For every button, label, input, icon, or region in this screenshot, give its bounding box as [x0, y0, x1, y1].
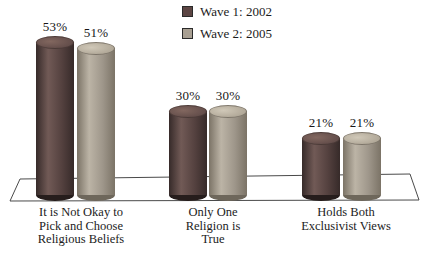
category-line: Exclusivist Views — [271, 220, 421, 234]
category-line: Only One — [138, 206, 288, 220]
cylinder-top — [343, 132, 381, 145]
value-label-wave2-cat2: 30% — [204, 89, 252, 103]
category-line: Religion is — [138, 220, 288, 234]
category-line: Holds Both — [271, 206, 421, 220]
legend-swatch-wave2-icon — [182, 28, 193, 39]
cylinder-top — [77, 42, 115, 55]
cylinder-body — [77, 48, 115, 195]
category-line: Pick and Choose — [6, 220, 156, 234]
cylinder-body — [36, 42, 74, 195]
cylinder-wave1-cat2 — [169, 105, 207, 195]
legend-label-wave2: Wave 2: 2005 — [200, 27, 272, 40]
category-label-1: It is Not Okay toPick and ChooseReligiou… — [6, 206, 156, 247]
cylinder-wave2-cat2 — [209, 105, 247, 195]
chart: 53%30%21%51%30%21% Wave 1: 2002 Wave 2: … — [0, 0, 426, 257]
cylinder-body — [302, 138, 340, 195]
cylinder-body — [209, 111, 247, 195]
cylinder-body — [343, 138, 381, 195]
value-label-wave2-cat3: 21% — [338, 116, 386, 130]
cylinder-top — [36, 36, 74, 49]
category-line: Religious Beliefs — [6, 233, 156, 247]
cylinder-wave2-cat3 — [343, 132, 381, 195]
value-label-wave2-cat1: 51% — [72, 26, 120, 40]
cylinder-wave1-cat3 — [302, 132, 340, 195]
legend-label-wave1: Wave 1: 2002 — [200, 5, 272, 18]
cylinder-wave1-cat1 — [36, 36, 74, 195]
legend-swatch-wave1-icon — [182, 6, 193, 17]
legend-item-wave1: Wave 1: 2002 — [182, 5, 272, 18]
cylinder-top — [209, 105, 247, 118]
cylinder-top — [169, 105, 207, 118]
category-label-3: Holds BothExclusivist Views — [271, 206, 421, 233]
legend: Wave 1: 2002 Wave 2: 2005 — [182, 5, 272, 40]
cylinder-body — [169, 111, 207, 195]
cylinder-wave2-cat1 — [77, 42, 115, 195]
category-line: True — [138, 233, 288, 247]
cylinder-top — [302, 132, 340, 145]
category-label-2: Only OneReligion isTrue — [138, 206, 288, 247]
legend-item-wave2: Wave 2: 2005 — [182, 27, 272, 40]
category-line: It is Not Okay to — [6, 206, 156, 220]
